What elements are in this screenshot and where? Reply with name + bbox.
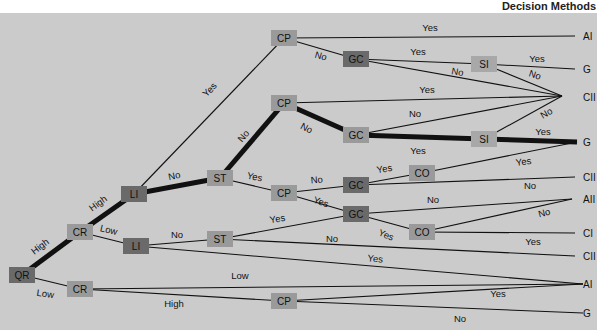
outcome-label: CII bbox=[583, 172, 596, 183]
edge-line bbox=[422, 232, 575, 233]
decision-node-co: CO bbox=[409, 165, 435, 181]
edge-label: Yes bbox=[410, 145, 426, 156]
edge-label: Yes bbox=[419, 84, 435, 95]
edge-label: High bbox=[87, 193, 109, 213]
decision-node-gc: GC bbox=[343, 51, 369, 67]
edge-label: Yes bbox=[410, 46, 426, 57]
node-label: GC bbox=[349, 209, 364, 220]
decision-node-st: ST bbox=[207, 231, 233, 247]
edge-label: No bbox=[524, 180, 536, 191]
edge-label: Yes bbox=[515, 155, 532, 168]
decision-node-co: CO bbox=[409, 224, 435, 240]
edge-label: No bbox=[299, 120, 315, 135]
edge-label: Yes bbox=[490, 288, 506, 299]
decision-node-cp: CP bbox=[271, 293, 297, 309]
edge-label: No bbox=[427, 194, 439, 205]
edge-label: No bbox=[451, 65, 465, 78]
edge-label: Yes bbox=[376, 162, 393, 176]
node-label: CR bbox=[73, 227, 87, 238]
outcome-label: G bbox=[583, 64, 591, 75]
node-label: CO bbox=[415, 168, 430, 179]
decision-node-qr: QR bbox=[9, 267, 35, 283]
decision-node-cp: CP bbox=[271, 30, 297, 46]
decision-node-cr: CR bbox=[67, 224, 93, 240]
edge-line bbox=[422, 142, 577, 173]
edge-label: No bbox=[409, 108, 421, 119]
edge-line bbox=[284, 301, 583, 313]
edge-label: Yes bbox=[377, 227, 396, 243]
edge-label: Yes bbox=[367, 252, 384, 264]
node-label: QR bbox=[15, 270, 30, 281]
edge-label: No bbox=[326, 233, 338, 244]
edge-line bbox=[220, 239, 575, 256]
edge-label: Yes bbox=[535, 126, 551, 137]
decision-node-gc: GC bbox=[343, 206, 369, 222]
edge-line bbox=[356, 59, 484, 64]
edge-line bbox=[484, 64, 575, 69]
edge-label: Yes bbox=[200, 80, 219, 99]
edge-label: Yes bbox=[525, 236, 541, 247]
edge-label: No bbox=[167, 169, 181, 182]
decision-node-st: ST bbox=[207, 170, 233, 186]
node-label: LI bbox=[132, 241, 140, 252]
decision-node-cp: CP bbox=[271, 185, 297, 201]
edge-label: Yes bbox=[312, 194, 330, 209]
node-label: SI bbox=[479, 59, 488, 70]
edge-line bbox=[356, 135, 484, 139]
node-label: CP bbox=[277, 296, 291, 307]
node-label: CP bbox=[277, 33, 291, 44]
nodes-layer: QRCRCRLILISTSTCPCPCPCPGCGCGCGCCOCOSISI bbox=[9, 30, 497, 309]
edge-label: Low bbox=[36, 287, 55, 300]
node-label: CP bbox=[277, 98, 291, 109]
outcome-label: CI bbox=[583, 228, 593, 239]
outcomes-layer: AIGCIIGCIIAIICICIIAIG bbox=[583, 31, 596, 319]
edge-line bbox=[220, 103, 284, 178]
decision-node-cr: CR bbox=[67, 281, 93, 297]
node-label: ST bbox=[214, 173, 227, 184]
edge-label: No bbox=[528, 68, 543, 82]
decision-node-li: LI bbox=[123, 238, 149, 254]
decision-node-li: LI bbox=[121, 186, 147, 202]
edge-label: Low bbox=[231, 270, 249, 281]
outcome-label: AI bbox=[583, 31, 592, 42]
decision-node-cp: CP bbox=[271, 95, 297, 111]
decision-node-gc: GC bbox=[343, 127, 369, 143]
edge-label: Low bbox=[99, 222, 119, 237]
outcome-label: AII bbox=[583, 194, 595, 205]
edge-line bbox=[284, 96, 562, 103]
decision-node-gc: GC bbox=[343, 177, 369, 193]
edge-line bbox=[136, 246, 583, 284]
outcome-label: G bbox=[583, 308, 591, 319]
edge-label: No bbox=[171, 229, 183, 240]
outcome-label: G bbox=[583, 137, 591, 148]
edge-label: No bbox=[310, 174, 323, 186]
edge-label: No bbox=[314, 49, 329, 63]
outcome-label: CII bbox=[583, 92, 596, 103]
outcome-label: CII bbox=[583, 251, 596, 262]
node-label: GC bbox=[349, 54, 364, 65]
outcome-label: AI bbox=[583, 279, 592, 290]
edge-label: Yes bbox=[422, 22, 438, 33]
edge-label: Yes bbox=[246, 170, 264, 184]
decision-node-si: SI bbox=[471, 56, 497, 72]
decision-node-si: SI bbox=[471, 131, 497, 147]
node-label: CP bbox=[277, 188, 291, 199]
node-label: CO bbox=[415, 227, 430, 238]
edge-label: Yes bbox=[529, 53, 545, 64]
node-label: SI bbox=[479, 134, 488, 145]
edge-line bbox=[484, 139, 577, 142]
edge-line bbox=[356, 96, 562, 135]
edge-line bbox=[356, 177, 575, 185]
edge-label: No bbox=[537, 206, 552, 220]
node-label: LI bbox=[130, 189, 138, 200]
node-label: CR bbox=[73, 284, 87, 295]
node-label: ST bbox=[214, 234, 227, 245]
decision-tree-diagram: HighLowHighLowYesNoNoYesNoYesLowHighYesN… bbox=[0, 0, 600, 333]
edges-layer bbox=[22, 36, 583, 313]
node-label: GC bbox=[349, 180, 364, 191]
edge-label: No bbox=[454, 313, 466, 324]
edge-line bbox=[284, 36, 575, 38]
edge-label: High bbox=[164, 298, 184, 309]
node-label: GC bbox=[349, 130, 364, 141]
edge-label: Yes bbox=[269, 212, 286, 226]
